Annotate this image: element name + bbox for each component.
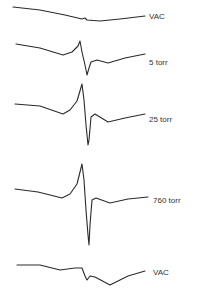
trace-5-torr	[16, 41, 145, 75]
label-25-torr: 25 torr	[149, 115, 172, 124]
label-vac-top: VAC	[149, 12, 165, 21]
label-760-torr: 760 torr	[153, 196, 181, 205]
trace-760-torr	[15, 164, 148, 245]
trace-vac-top	[13, 7, 145, 21]
label-vac-bottom: VAC	[153, 268, 169, 277]
trace-vac-bottom	[17, 265, 145, 285]
label-5-torr: 5 torr	[149, 58, 168, 67]
trace-25-torr	[15, 84, 145, 145]
spectra-plot	[0, 0, 197, 296]
